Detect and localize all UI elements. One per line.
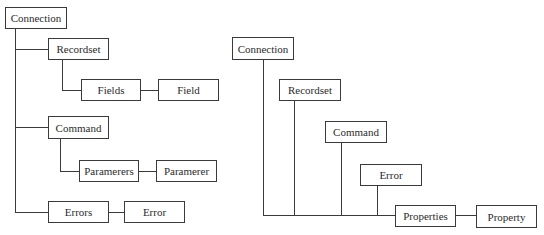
node-label: Error [143, 206, 166, 218]
node-fields: Fields [81, 79, 141, 101]
connector [139, 171, 156, 172]
node-parameters: Paramerers [79, 160, 139, 182]
node-label: Paramerer [164, 165, 209, 177]
connector [456, 215, 476, 216]
node-label: Paramerers [84, 165, 133, 177]
node-label: Recordset [57, 43, 101, 55]
connector [263, 215, 395, 216]
node-label: Connection [11, 12, 62, 24]
node-label: Command [333, 126, 379, 138]
connector [60, 139, 61, 171]
node-label: Command [56, 122, 102, 134]
connector [15, 28, 16, 212]
connector [109, 212, 124, 213]
node-command: Command [48, 116, 109, 139]
connector [60, 171, 79, 172]
node-label: Connection [238, 43, 289, 55]
node-label: Property [488, 211, 526, 223]
connector [15, 212, 48, 213]
node-label: Errors [65, 206, 93, 218]
node-recordset: Recordset [279, 79, 341, 101]
node-connection: Connection [232, 37, 294, 60]
connector [62, 60, 63, 90]
node-property: Property [476, 205, 537, 228]
connector [141, 90, 158, 91]
connector [15, 127, 48, 128]
node-field: Field [158, 79, 219, 101]
node-label: Properties [403, 210, 448, 222]
node-label: Error [379, 169, 402, 181]
node-recordset: Recordset [48, 38, 109, 60]
node-errors: Errors [48, 201, 109, 223]
connector [263, 60, 264, 215]
node-properties: Properties [395, 205, 456, 227]
connector [341, 143, 342, 215]
connector [62, 90, 81, 91]
node-command: Command [325, 121, 387, 143]
node-error: Error [124, 201, 185, 223]
node-connection: Connection [5, 7, 67, 29]
node-label: Field [177, 84, 200, 96]
node-label: Recordset [288, 84, 332, 96]
connector [294, 100, 295, 215]
node-error: Error [360, 164, 422, 186]
connector [377, 185, 378, 215]
connector [15, 49, 48, 50]
node-label: Fields [98, 84, 125, 96]
node-parameter: Paramerer [156, 160, 217, 182]
